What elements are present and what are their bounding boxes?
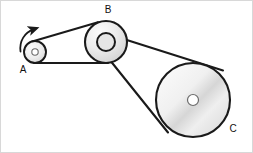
pulley-diagram-figure: A B C xyxy=(0,0,253,153)
pulley-c-hub xyxy=(188,95,199,106)
pulley-label-a: A xyxy=(20,64,27,75)
pulley-b xyxy=(85,21,127,63)
pulley-diagram-svg: A B C xyxy=(1,1,253,153)
pulley-a xyxy=(24,41,46,63)
pulley-a-hub xyxy=(32,49,38,55)
pulley-b-inner-hub xyxy=(97,33,115,51)
pulley-c xyxy=(156,63,230,137)
pulley-label-c: C xyxy=(229,123,236,134)
pulley-label-b: B xyxy=(105,4,112,15)
